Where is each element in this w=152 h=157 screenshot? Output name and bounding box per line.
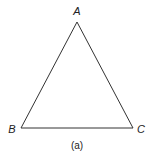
triangle-figure: A B C (a) [0,0,152,157]
triangle-diagram: A B C (a) [0,0,152,157]
vertex-label-c: C [137,123,145,135]
figure-caption: (a) [71,140,83,151]
vertex-label-a: A [72,5,80,17]
vertex-label-b: B [8,123,15,135]
triangle-abc [21,22,133,128]
